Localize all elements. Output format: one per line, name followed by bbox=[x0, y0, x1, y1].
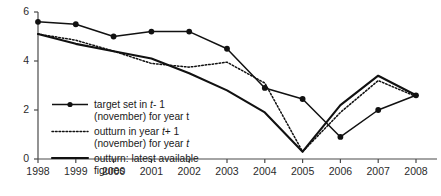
x-tick-label: 2007 bbox=[367, 165, 391, 177]
y-tick-label: 6 bbox=[23, 5, 29, 17]
x-tick-label: 2008 bbox=[404, 165, 428, 177]
data-point-marker bbox=[262, 85, 268, 91]
legend-label-latest-line1: outturn: latest available bbox=[94, 153, 199, 164]
x-tick-label: 1998 bbox=[26, 165, 50, 177]
chart-container: 0246 19981999200020012002200320042005200… bbox=[0, 0, 441, 196]
data-point-marker bbox=[149, 29, 155, 35]
legend-swatch-target-marker bbox=[67, 102, 72, 107]
x-tick-label: 2006 bbox=[329, 165, 353, 177]
data-point-marker bbox=[338, 134, 344, 140]
y-tick-label: 2 bbox=[23, 103, 29, 115]
legend-label-outturn-line2: (november) for year t bbox=[94, 138, 190, 149]
data-point-marker bbox=[224, 46, 230, 52]
legend-label-target-line1: target set in t- 1 bbox=[94, 99, 165, 110]
x-tick-label: 2001 bbox=[140, 165, 164, 177]
y-tick-label: 0 bbox=[23, 152, 29, 164]
x-tick-label: 1999 bbox=[64, 165, 88, 177]
data-point-marker bbox=[186, 29, 192, 35]
legend-item-target: target set in t- 1 (november) for year t bbox=[52, 99, 189, 122]
x-tick-label: 2003 bbox=[215, 165, 239, 177]
data-point-marker bbox=[375, 107, 381, 113]
y-axis-ticks: 0246 bbox=[23, 5, 38, 164]
y-tick-label: 4 bbox=[23, 54, 29, 66]
x-axis-ticks: 1998199920002001200220032004200520062007… bbox=[26, 159, 428, 177]
series-group bbox=[35, 19, 419, 152]
data-point-marker bbox=[111, 34, 117, 40]
line-chart: 0246 19981999200020012002200320042005200… bbox=[0, 0, 441, 196]
data-point-marker bbox=[73, 21, 79, 27]
data-point-marker bbox=[300, 96, 306, 102]
x-tick-label: 2002 bbox=[178, 165, 202, 177]
x-tick-label: 2004 bbox=[253, 165, 277, 177]
legend-label-latest-line2: figures bbox=[94, 165, 125, 176]
x-tick-label: 2005 bbox=[291, 165, 315, 177]
legend-item-outturn-t-plus-1: outturn in year t+ 1 (november) for year… bbox=[52, 126, 190, 149]
legend-label-outturn-line1: outturn in year t+ 1 bbox=[94, 126, 180, 137]
legend-label-target-line2: (november) for year t bbox=[94, 111, 189, 122]
data-point-marker bbox=[35, 19, 41, 25]
data-point-marker bbox=[413, 92, 419, 98]
